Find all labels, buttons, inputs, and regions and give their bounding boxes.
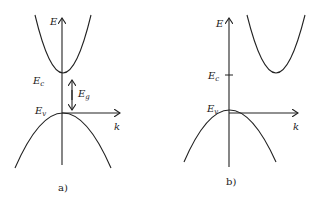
gap-label: Eg [77,88,90,101]
conduction-band-curve [35,15,91,73]
energy-axis-label: E [215,18,224,29]
energy-axis-label: E [49,16,58,27]
panel-a-caption: a) [58,182,68,193]
conduction-edge-label: Ec [32,75,44,88]
k-axis-label: k [293,121,299,132]
conduction-band-curve [247,15,305,73]
panel-b-caption: b) [226,176,236,187]
conduction-edge-label: Ec [207,70,219,83]
valence-band-curve [184,110,276,162]
band-diagram: E k Ec Ev Eg a) E k Ec Ev b) [0,0,313,200]
panel-b: E k Ec Ev b) [184,15,305,187]
valence-band-curve [15,113,111,168]
valence-edge-label: Ev [34,105,46,118]
valence-edge-label: Ev [206,103,218,116]
k-axis-label: k [114,121,120,132]
panel-a: E k Ec Ev Eg a) [15,15,120,193]
